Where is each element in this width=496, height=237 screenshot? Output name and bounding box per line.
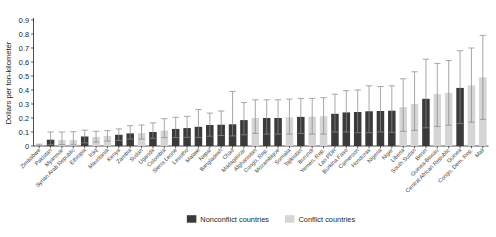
x-axis-labels: ZimbabwePakistanMyanmarSyrian Arab Repub…: [19, 146, 485, 193]
chart-legend: Nonconflict countriesConflict countries: [187, 215, 356, 224]
y-tick-label: 0.5: [19, 72, 29, 81]
legend-swatch: [285, 215, 295, 223]
legend-swatch: [187, 215, 197, 223]
axis-lines: [34, 18, 489, 146]
legend-label: Conflict countries: [298, 215, 355, 224]
y-tick-label: 0.7: [19, 44, 29, 53]
error-bars: [36, 35, 486, 145]
y-tick-label: 0.9: [19, 16, 29, 25]
chart-canvas: Dollars per ton-kilometer 00.10.20.30.40…: [0, 0, 496, 237]
bar-chart: Dollars per ton-kilometer 00.10.20.30.40…: [0, 0, 496, 237]
y-tick-label: 0.1: [19, 128, 29, 137]
y-axis-title-text: Dollars per ton-kilometer: [4, 41, 13, 124]
legend-label: Nonconflict countries: [200, 215, 269, 224]
y-tick-label: 0: [25, 142, 29, 151]
y-tick-label: 0.2: [19, 114, 29, 123]
y-tick-label: 0.3: [19, 100, 29, 109]
bar-series: [35, 77, 486, 148]
y-axis-ticks: 00.10.20.30.40.50.60.70.80.9: [19, 16, 34, 151]
x-axis-label-mali: Mali: [474, 147, 486, 159]
y-tick-label: 0.4: [19, 86, 29, 95]
y-tick-label: 0.6: [19, 58, 29, 67]
legend-item-conflict-countries[interactable]: Conflict countries: [285, 215, 355, 224]
y-axis-title: Dollars per ton-kilometer: [4, 41, 13, 124]
legend-item-nonconflict-countries[interactable]: Nonconflict countries: [187, 215, 269, 224]
y-tick-label: 0.8: [19, 30, 29, 39]
